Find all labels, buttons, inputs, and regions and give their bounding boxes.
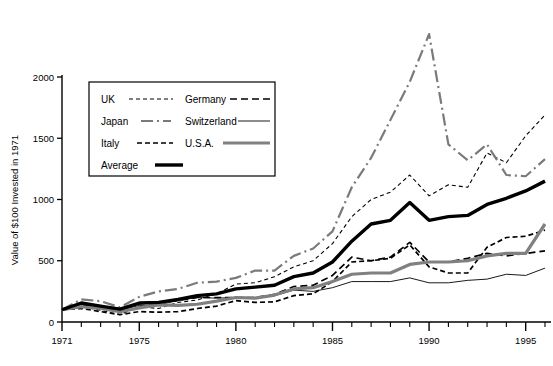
chart-page: Value of $100 Invested in 1971 050010001… xyxy=(0,0,553,366)
chart-legend: UKGermanyJapanSwitzerlandItalyU.S.A.Aver… xyxy=(89,82,275,176)
legend-label-italy: Italy xyxy=(101,138,119,149)
chart-background xyxy=(0,0,553,366)
x-tick-label: 1985 xyxy=(322,335,343,346)
y-tick-label: 0 xyxy=(49,317,54,328)
y-axis-label: Value of $100 Invested in 1971 xyxy=(9,135,20,265)
line-chart: Value of $100 Invested in 1971 050010001… xyxy=(0,0,553,366)
y-tick-label: 1500 xyxy=(33,133,54,144)
y-tick-label: 2000 xyxy=(33,72,54,83)
legend-label-average: Average xyxy=(101,160,139,171)
x-tick-label: 1995 xyxy=(515,335,536,346)
legend-label-uk: UK xyxy=(101,94,115,105)
x-tick-label: 1990 xyxy=(419,335,440,346)
y-tick-label: 1000 xyxy=(33,194,54,205)
x-tick-label: 1971 xyxy=(51,335,72,346)
y-tick-label: 500 xyxy=(38,255,54,266)
x-tick-label: 1980 xyxy=(225,335,246,346)
legend-label-germany: Germany xyxy=(185,94,226,105)
legend-label-usa: U.S.A. xyxy=(185,138,214,149)
x-tick-label: 1975 xyxy=(129,335,150,346)
legend-label-japan: Japan xyxy=(101,116,128,127)
legend-label-switzerland: Switzerland xyxy=(185,116,237,127)
